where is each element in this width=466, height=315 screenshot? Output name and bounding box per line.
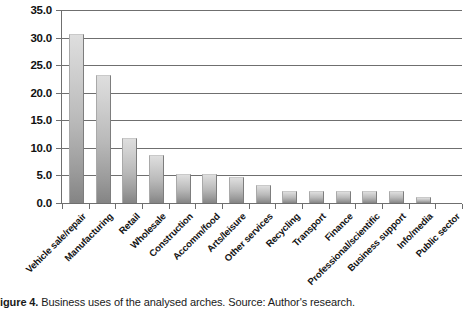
y-tick-label: 5.0 (37, 169, 52, 181)
y-tick-mark (56, 10, 62, 11)
x-tick-mark (89, 204, 90, 209)
gridline (62, 38, 462, 39)
bar (389, 191, 404, 203)
x-tick-mark (302, 204, 303, 209)
bar (149, 155, 164, 203)
bar (229, 177, 244, 203)
y-tick-mark (56, 175, 62, 176)
y-tick-label: 10.0 (30, 142, 52, 154)
x-tick-mark (169, 204, 170, 209)
figure-number: igure 4. (0, 296, 38, 308)
figure-container: 0.05.010.015.020.025.030.035.0 Vehicle s… (0, 0, 466, 315)
bar (309, 191, 324, 203)
x-tick-mark (142, 204, 143, 209)
bar (282, 191, 297, 203)
x-tick-mark (382, 204, 383, 209)
y-tick-mark (56, 93, 62, 94)
gridline (62, 93, 462, 94)
bar (176, 174, 191, 203)
x-tick-mark (275, 204, 276, 209)
y-tick-label: 0.0 (37, 197, 52, 209)
gridline (62, 10, 462, 11)
x-tick-mark (115, 204, 116, 209)
x-tick-mark (62, 204, 63, 209)
x-tick-mark (462, 204, 463, 209)
bar (69, 34, 84, 203)
bar (122, 138, 137, 203)
y-tick-mark (56, 65, 62, 66)
bar (336, 191, 351, 203)
x-tick-mark (355, 204, 356, 209)
bar (256, 185, 271, 203)
x-tick-mark (195, 204, 196, 209)
x-tick-mark (409, 204, 410, 209)
caption-text: Business uses of the analysed arches. So… (41, 296, 355, 308)
x-tick-mark (435, 204, 436, 209)
bar (96, 75, 111, 203)
gridline (62, 65, 462, 66)
y-tick-mark (56, 38, 62, 39)
y-tick-mark (56, 148, 62, 149)
bar (202, 174, 217, 203)
y-tick-label: 30.0 (30, 32, 52, 44)
y-tick-label: 15.0 (30, 114, 52, 126)
bar (362, 191, 377, 203)
gridline (62, 120, 462, 121)
y-tick-label: 20.0 (30, 87, 52, 99)
x-tick-mark (222, 204, 223, 209)
x-tick-mark (249, 204, 250, 209)
plot-area (62, 10, 462, 203)
y-tick-label: 35.0 (30, 4, 52, 16)
x-tick-mark (329, 204, 330, 209)
y-tick-label: 25.0 (30, 59, 52, 71)
figure-caption: igure 4. Business uses of the analysed a… (0, 296, 466, 308)
bar-chart: 0.05.010.015.020.025.030.035.0 Vehicle s… (0, 0, 466, 215)
y-tick-mark (56, 120, 62, 121)
x-axis-line (62, 203, 462, 204)
